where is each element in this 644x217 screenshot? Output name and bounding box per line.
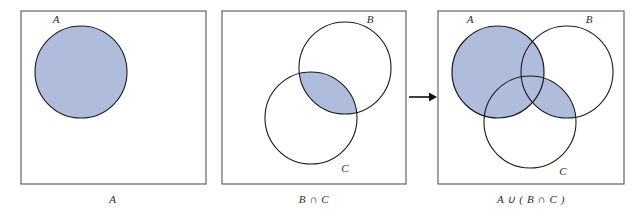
circle-label-b: B — [367, 13, 374, 25]
venn-figure: A B C — [0, 0, 644, 217]
caption-panel-3: A ∪ ( B ∩ C ) — [496, 193, 565, 206]
panel-b-cap-c: B C — [222, 11, 406, 184]
panel-a-cup-b-cap-c: A B C — [438, 11, 624, 184]
caption-panel-2: B ∩ C — [299, 193, 330, 205]
circle-label-a: A — [52, 13, 60, 25]
venn-diagram-svg: A B C — [0, 0, 644, 217]
circle-label-c: C — [341, 162, 349, 174]
circle-label-b-3: B — [586, 13, 593, 25]
circle-label-a-3: A — [466, 13, 474, 25]
caption-panel-1: A — [108, 193, 116, 205]
circle-label-c-3: C — [559, 165, 567, 177]
panel-a: A — [21, 11, 206, 184]
rightwards-arrow-icon — [409, 93, 437, 102]
